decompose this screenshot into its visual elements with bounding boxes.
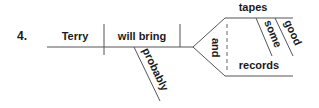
conjunction-word: and bbox=[210, 38, 222, 58]
modifier-word-good: good bbox=[282, 18, 304, 47]
object-word-records: records bbox=[239, 59, 279, 71]
modifier-word-some: some bbox=[262, 18, 284, 49]
verb-word: will bring bbox=[117, 30, 166, 42]
sentence-diagram: 4. Terry will bring probably and tapes s… bbox=[0, 0, 319, 108]
item-number: 4. bbox=[17, 29, 27, 43]
object-word-tapes: tapes bbox=[239, 1, 268, 13]
subject-word: Terry bbox=[62, 30, 90, 42]
